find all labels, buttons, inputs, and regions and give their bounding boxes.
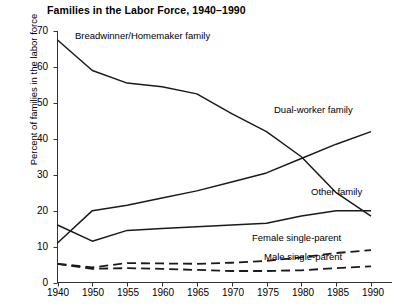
series-label-dual-worker-family: Dual-worker family bbox=[274, 104, 353, 115]
y-axis-ticks bbox=[54, 32, 58, 284]
series-label-female-single-parent: Female single-parent bbox=[252, 232, 341, 243]
series-line-male-single-parent bbox=[58, 264, 372, 271]
x-axis-ticks bbox=[59, 283, 372, 287]
series-label-other-family: Other family bbox=[311, 186, 362, 197]
chart-container: Families in the Labor Force, 1940–1990 P… bbox=[0, 0, 398, 305]
series-label-breadwinner-homemaker-family: Breadwinner/Homemaker family bbox=[75, 30, 210, 41]
axes bbox=[58, 31, 393, 283]
series-label-male-single-parent: Male single-parent bbox=[264, 251, 342, 262]
